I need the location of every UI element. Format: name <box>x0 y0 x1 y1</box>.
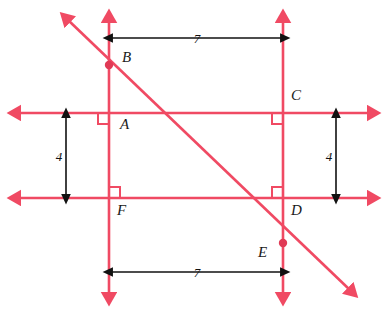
point-marker-E <box>279 239 287 247</box>
lines-layer <box>18 20 370 295</box>
point-label-B: B <box>122 49 131 65</box>
right-angle-marker-A <box>98 113 109 124</box>
geometry-figure: 7744 ABCDEF <box>0 0 384 312</box>
right-angle-marker-D <box>272 187 283 198</box>
point-label-E: E <box>257 244 267 260</box>
point-label-C: C <box>291 87 302 103</box>
figure-canvas: 7744 ABCDEF <box>0 0 384 312</box>
dimension-arrows-layer: 7744 <box>56 31 336 280</box>
point-label-A: A <box>119 116 130 132</box>
point-label-F: F <box>116 202 127 218</box>
dimension-label-bottom-width: 7 <box>194 265 201 280</box>
point-markers-layer <box>105 61 287 247</box>
point-label-D: D <box>290 202 302 218</box>
dimension-label-left-height: 4 <box>56 149 63 164</box>
point-marker-B <box>105 61 113 69</box>
right-angle-marker-C <box>272 113 283 124</box>
dimension-label-right-height: 4 <box>326 149 333 164</box>
right-angle-marker-F <box>109 187 120 198</box>
dimension-label-top-width: 7 <box>194 31 201 46</box>
